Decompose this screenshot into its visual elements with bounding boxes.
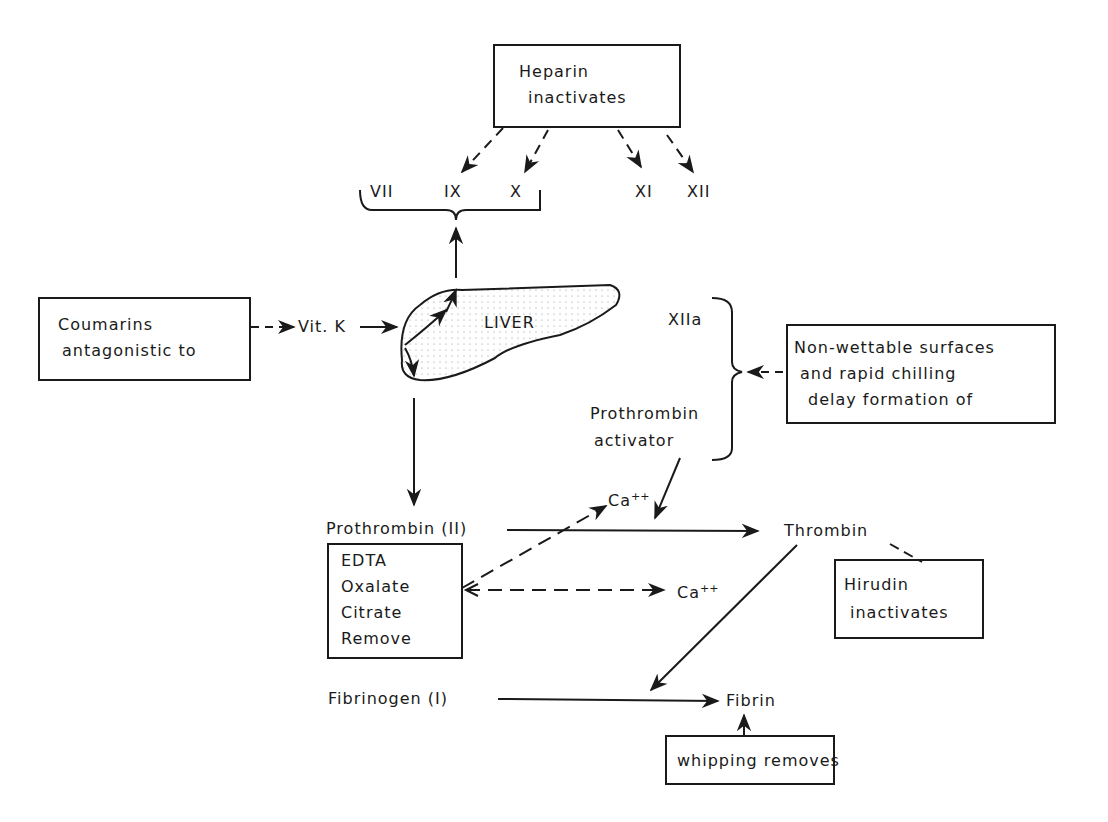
heparin-to-ix-arrow [462,128,503,172]
factor-x: X [510,181,522,203]
nonwettable-box: Non-wettable surfaces and rapid chilling… [786,324,1056,424]
prothrombin-label: Prothrombin (II) [326,518,467,540]
fibrin-label: Fibrin [726,690,776,712]
thrombin-to-fibrin-arrow [651,545,797,690]
whipping-box: whipping removes [665,735,835,785]
heparin-inactivates-label: inactivates [528,86,627,110]
vitamin-k-label: Vit. K [298,316,346,338]
prothrombin-to-thrombin-arrow [507,530,758,531]
heparin-to-xi-arrow [618,130,641,167]
oxalate-line: Oxalate [341,575,410,599]
nonwettable-line2: and rapid chilling [800,362,956,386]
coumarins-box: Coumarins antagonistic to [38,297,251,381]
calcium-lower-label: Ca++ [677,578,718,604]
liver-label: LIVER [484,312,535,334]
hirudin-inactivates-label: inactivates [850,601,949,625]
edta-to-ca-upper-arrow [462,506,606,588]
activator-brace [712,298,742,460]
citrate-line: Citrate [341,601,402,625]
fibrinogen-to-fibrin-arrow [498,699,718,701]
hirudin-label: Hirudin [844,573,909,597]
heparin-label: Heparin [519,60,589,84]
prothrombin-activator-line2: activator [594,430,674,452]
fibrinogen-label: Fibrinogen (I) [328,688,448,710]
factor-ix: IX [444,181,462,203]
factor-vii: VII [370,181,393,203]
factor-xii: XII [687,181,710,203]
edta-line: EDTA [341,549,387,573]
antagonistic-label: antagonistic to [62,339,197,363]
heparin-box: Heparin inactivates [493,44,681,128]
nonwettable-line3: delay formation of [808,388,973,412]
heparin-to-xii-arrow [667,135,693,172]
factor-xi: XI [635,181,653,203]
heparin-to-x-arrow [525,130,548,172]
calcium-upper-label: Ca++ [608,486,649,512]
hirudin-box: Hirudin inactivates [834,559,984,639]
coumarins-label: Coumarins [58,313,153,337]
nonwettable-line1: Non-wettable surfaces [794,336,995,360]
factor-xiia-label: XIIa [668,309,702,331]
thrombin-label: Thrombin [784,520,868,542]
activator-to-reaction-arrow [655,458,680,518]
prothrombin-activator-line1: Prothrombin [590,403,699,425]
remove-line: Remove [341,627,412,651]
whipping-label: whipping removes [677,749,840,773]
edta-box: EDTA Oxalate Citrate Remove [327,543,463,659]
